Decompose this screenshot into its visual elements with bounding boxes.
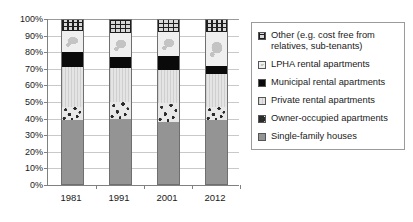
bar-segment-municipal: [205, 66, 228, 74]
bar-segment-owner: [109, 102, 132, 119]
y-axis-tick-label: 50%: [25, 97, 43, 107]
legend-label: Owner-occupied apartments: [271, 113, 388, 124]
y-axis-tick-label: 90%: [25, 31, 43, 41]
legend-item-municipal[interactable]: Municipal rental apartments: [258, 77, 399, 88]
legend-label: Private rental apartments: [271, 95, 375, 106]
legend-swatch-private-icon: [258, 97, 266, 105]
bar-group: [48, 19, 239, 185]
chart-legend: Other (e.g. cost free from relatives, su…: [251, 22, 405, 150]
bar-segment-other: [205, 19, 228, 32]
x-axis-tick-mark: [96, 185, 97, 189]
legend-item-owner[interactable]: Owner-occupied apartments: [258, 113, 399, 124]
bar-segment-lpha: [157, 32, 180, 56]
y-axis-tick-label: 0%: [30, 180, 43, 190]
bar-segment-owner: [157, 103, 180, 122]
x-axis-tick-mark: [240, 185, 241, 189]
bar-segment-owner: [61, 107, 84, 120]
bar-segment-lpha: [205, 32, 228, 65]
legend-swatch-single-icon: [258, 133, 266, 141]
bar-segment-other: [61, 19, 84, 31]
x-axis-label: 1981: [60, 192, 81, 203]
y-axis-tick-label: 80%: [25, 47, 43, 57]
bar-stack: [61, 19, 84, 185]
stacked-bar-chart: 0%10%20%30%40%50%60%70%80%90%100% 198119…: [0, 0, 413, 222]
legend-item-private[interactable]: Private rental apartments: [258, 95, 399, 106]
bar-segment-private: [61, 67, 84, 107]
bar-segment-municipal: [157, 56, 180, 70]
bar-segment-private: [157, 70, 180, 102]
bar-segment-single: [205, 120, 228, 185]
x-axis-tick-mark: [144, 185, 145, 189]
legend-item-other[interactable]: Other (e.g. cost free from relatives, su…: [258, 30, 399, 52]
x-axis-label: 1991: [108, 192, 129, 203]
plot-area: 0%10%20%30%40%50%60%70%80%90%100%: [47, 19, 239, 186]
bar-segment-single: [109, 119, 132, 185]
bar-segment-municipal: [61, 52, 84, 67]
bar-segment-lpha: [109, 33, 132, 57]
legend-swatch-lpha-icon: [258, 61, 266, 69]
legend-item-single[interactable]: Single-family houses: [258, 131, 399, 142]
x-axis-tick-mark: [192, 185, 193, 189]
legend-label: Single-family houses: [271, 131, 357, 142]
bar-segment-owner: [205, 107, 228, 120]
legend-label: Other (e.g. cost free from relatives, su…: [271, 30, 399, 52]
x-axis-label: 2001: [156, 192, 177, 203]
bar-stack: [157, 19, 180, 185]
y-axis-tick-label: 100%: [20, 14, 43, 24]
legend-label: LPHA rental apartments: [271, 59, 370, 70]
legend-item-lpha[interactable]: LPHA rental apartments: [258, 59, 399, 70]
legend-swatch-other-icon: [258, 32, 266, 40]
y-axis-tick-label: 40%: [25, 114, 43, 124]
legend-swatch-owner-icon: [258, 115, 266, 123]
y-axis-tick-mark: [44, 185, 48, 186]
bar-stack: [109, 19, 132, 185]
y-axis-tick-label: 20%: [25, 147, 43, 157]
bar-segment-single: [157, 122, 180, 185]
bar-segment-private: [205, 74, 228, 107]
y-axis-tick-label: 70%: [25, 64, 43, 74]
bar-segment-other: [157, 19, 180, 32]
bar-stack: [205, 19, 228, 185]
bar-segment-other: [109, 19, 132, 33]
y-axis-tick-label: 30%: [25, 130, 43, 140]
x-axis-label: 2012: [204, 192, 225, 203]
legend-label: Municipal rental apartments: [271, 77, 385, 88]
legend-swatch-municipal-icon: [258, 79, 266, 87]
bar-segment-single: [61, 120, 84, 185]
y-axis-tick-label: 10%: [25, 163, 43, 173]
bar-segment-municipal: [109, 57, 132, 68]
bar-segment-private: [109, 68, 132, 102]
y-axis-tick-label: 60%: [25, 80, 43, 90]
bar-segment-lpha: [61, 31, 84, 53]
